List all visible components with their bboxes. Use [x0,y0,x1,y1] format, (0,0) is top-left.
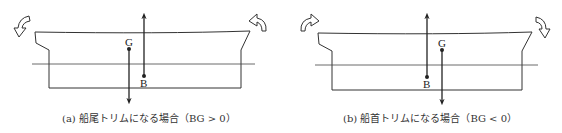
panel-a: G B (a) 船尾トリムになる場合（BG > 0） [14,14,266,124]
g-label: G [125,36,133,48]
caption-b: (b) 船首トリムになる場合（BG < 0） [343,112,517,124]
rotation-arrow-left-icon [14,16,30,37]
trim-diagram: G B (a) 船尾トリムになる場合（BG > 0） G B (b) 船首トリム… [0,0,562,133]
b-label: B [423,78,430,90]
g-label: G [438,37,446,49]
rotation-arrow-right-icon [249,14,266,31]
rotation-arrow-right-icon [536,17,550,38]
rotation-arrow-left-icon [301,14,319,31]
b-label: B [140,77,147,89]
caption-a: (a) 船尾トリムになる場合（BG > 0） [62,112,236,124]
panel-b: G B (b) 船首トリムになる場合（BG < 0） [301,14,550,124]
